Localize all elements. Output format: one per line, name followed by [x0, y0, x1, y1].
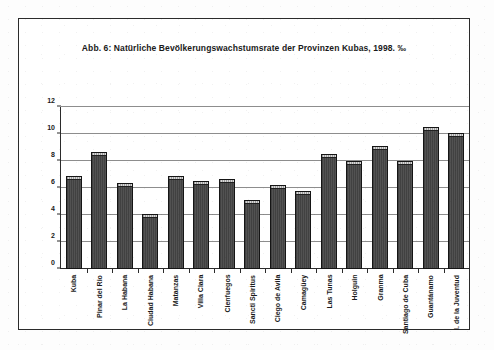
bar — [66, 176, 82, 269]
x-axis-label: Villa Clara — [198, 275, 205, 309]
bar — [193, 181, 209, 269]
bar — [117, 183, 133, 269]
bar — [346, 161, 362, 269]
bar — [397, 161, 413, 269]
bar-slot — [138, 107, 164, 269]
x-axis-label-slot: Villa Clara — [189, 275, 215, 350]
x-axis-label-slot: La Habana — [112, 275, 138, 350]
x-axis-label-slot: Pinar del Rio — [87, 275, 113, 350]
x-tick — [418, 269, 419, 273]
x-tick — [214, 269, 215, 273]
x-axis-label-slot: Ciudad Habana — [138, 275, 164, 350]
bar — [142, 214, 158, 269]
x-axis-label: Ciudad Habana — [147, 275, 154, 326]
bar-top-highlight — [449, 134, 463, 137]
bar — [295, 191, 311, 269]
x-tick — [189, 269, 190, 273]
x-axis-label-slot: Kuba — [61, 275, 87, 350]
bar-slot — [418, 107, 444, 269]
bar-slot — [112, 107, 138, 269]
bar-top-highlight — [67, 177, 81, 180]
x-axis-label-slot: Cienfuegos — [214, 275, 240, 350]
bar-top-highlight — [347, 162, 361, 165]
bar — [448, 133, 464, 269]
bar — [372, 146, 388, 269]
x-tick — [265, 269, 266, 273]
x-axis-label: Pinar del Rio — [96, 275, 103, 318]
x-axis-label: Cienfuegos — [223, 274, 230, 312]
x-axis-label: Kuba — [70, 275, 77, 293]
bar-top-highlight — [92, 153, 106, 156]
y-tick-label-0: 0 — [51, 259, 55, 266]
x-tick — [87, 269, 88, 273]
x-axis-labels: KubaPinar del RioLa HabanaCiudad HabanaM… — [61, 275, 469, 350]
y-tick-label-12: 12 — [47, 97, 55, 104]
bar — [270, 185, 286, 269]
x-axis-label: Santiago de Cuba — [402, 274, 409, 333]
bar-slot — [163, 107, 189, 269]
x-axis-label-slot: Guantánamo — [418, 275, 444, 350]
bar-top-highlight — [322, 155, 336, 158]
x-axis-label-slot: Santiago de Cuba — [393, 275, 419, 350]
x-axis-label-slot: Ciego de Avila — [265, 275, 291, 350]
bar-slot — [316, 107, 342, 269]
x-tick — [163, 269, 164, 273]
x-axis-label-slot: Holguin — [342, 275, 368, 350]
x-axis-label: Holguin — [351, 274, 358, 300]
bar-slot — [240, 107, 266, 269]
bar — [321, 154, 337, 269]
x-tick — [342, 269, 343, 273]
x-axis-label: Camagüey — [300, 274, 307, 309]
x-axis-label: Sancti Spiritus — [249, 274, 256, 323]
bar-series — [61, 107, 469, 269]
bar — [91, 152, 107, 269]
figure-frame: Abb. 6: Natürliche Bevölkerungswachstums… — [18, 18, 470, 330]
x-axis-label: Matanzas — [172, 275, 179, 307]
bar-slot — [342, 107, 368, 269]
x-axis-label-slot: I. de la Juventud — [444, 275, 470, 350]
bar — [423, 127, 439, 269]
bar-top-highlight — [245, 201, 259, 204]
x-tick — [112, 269, 113, 273]
scanned-page: Abb. 6: Natürliche Bevölkerungswachstums… — [0, 0, 494, 350]
bar-top-highlight — [271, 186, 285, 189]
x-axis-label-slot: Matanzas — [163, 275, 189, 350]
y-tick-label-6: 6 — [51, 178, 55, 185]
bar-slot — [367, 107, 393, 269]
x-axis-label-slot: Las Tunas — [316, 275, 342, 350]
x-axis-label: La Habana — [121, 274, 128, 309]
x-axis-label-slot: Granma — [367, 275, 393, 350]
x-tick — [316, 269, 317, 273]
bar — [244, 200, 260, 269]
x-axis-label: Ciego de Avila — [274, 275, 281, 323]
bar — [219, 179, 235, 269]
bar-top-highlight — [194, 182, 208, 185]
bar-slot — [444, 107, 470, 269]
y-tick-label-2: 2 — [51, 232, 55, 239]
x-tick — [444, 269, 445, 273]
bar-top-highlight — [296, 192, 310, 195]
x-tick — [240, 269, 241, 273]
x-axis-label: Guantánamo — [427, 275, 434, 318]
bar-top-highlight — [220, 180, 234, 183]
bar-top-highlight — [398, 162, 412, 165]
bar-slot — [61, 107, 87, 269]
bar-top-highlight — [118, 184, 132, 187]
bar — [168, 176, 184, 269]
bar-slot — [393, 107, 419, 269]
bar-slot — [265, 107, 291, 269]
x-axis-label-slot: Sancti Spiritus — [240, 275, 266, 350]
x-axis-label: Las Tunas — [325, 274, 332, 308]
plot-area: 024681012 — [61, 107, 469, 269]
y-tick-label-8: 8 — [51, 151, 55, 158]
x-tick — [469, 269, 470, 273]
x-axis-label-slot: Camagüey — [291, 275, 317, 350]
y-tick-label-4: 4 — [51, 205, 55, 212]
bar-top-highlight — [169, 177, 183, 180]
bar-top-highlight — [143, 215, 157, 218]
bar-top-highlight — [373, 147, 387, 150]
x-tick — [138, 269, 139, 273]
bar-slot — [87, 107, 113, 269]
x-tick — [393, 269, 394, 273]
chart-title: Abb. 6: Natürliche Bevölkerungswachstums… — [19, 43, 469, 53]
